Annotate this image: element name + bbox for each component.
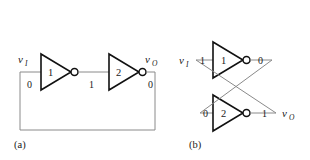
panel-b-value-bottom-input: 0 [203,108,208,119]
panel-b-inverter-1-body [213,42,243,78]
svg-text:v: v [179,54,184,66]
panel-a-output-label: v O [145,53,158,68]
panel-a-input-label: v I [18,53,28,68]
panel-a-inverter-2-bubble [139,69,146,76]
svg-text:v: v [18,53,23,65]
panel-b-inverter-1-label: 1 [221,55,226,66]
svg-text:O: O [152,59,158,68]
panel-a: v I v O 1 2 0 1 0 (a) [14,53,158,151]
svg-text:v: v [282,107,287,119]
panel-a-value-input: 0 [27,79,32,90]
panel-b-cross-wire-bottom-to-top [196,60,276,113]
svg-text:I: I [24,59,28,68]
panel-a-caption: (a) [14,139,26,151]
panel-b-value-top-input: 1 [200,55,205,66]
panel-a-inverter-1-bubble [71,69,78,76]
panel-a-value-mid: 1 [89,79,94,90]
circuit-diagram: v I v O 1 2 0 1 0 (a) [0,0,310,160]
panel-a-inverter-2-body [109,54,139,90]
figure-root: v I v O 1 2 0 1 0 (a) [0,0,310,160]
panel-a-value-output: 0 [148,79,153,90]
panel-b-value-bottom-output: 1 [262,108,267,119]
svg-text:v: v [145,53,150,65]
panel-a-inverter-1-body [41,54,71,90]
panel-b-value-top-output: 0 [258,55,263,66]
panel-b-caption: (b) [189,139,202,151]
panel-a-inverter-2-label: 2 [116,67,121,78]
svg-text:O: O [289,113,295,122]
svg-text:I: I [185,60,189,69]
panel-b-inverter-2-label: 2 [221,108,226,119]
panel-a-inverter-1-label: 1 [48,67,53,78]
panel-b-inverter-2-bubble [243,110,250,117]
panel-b-inverter-1-bubble [243,57,250,64]
panel-b-input-label: v I [179,54,189,69]
panel-b-output-label: v O [282,107,295,122]
panel-b: v I v O 1 2 1 0 0 1 (b) [179,42,295,151]
